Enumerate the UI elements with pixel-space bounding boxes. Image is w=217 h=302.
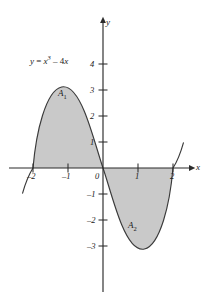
equation-equals: =: [34, 56, 44, 66]
function-area-figure: y = x3 – 4x A1 A2 x y –2 –1 0 1 2 4 3 2 …: [0, 0, 217, 302]
region-a1-index: 1: [64, 93, 67, 100]
y-tick-label-3: 3: [90, 86, 94, 95]
y-tick-label-2: 2: [90, 112, 94, 121]
y-tick-label-1: 1: [90, 138, 94, 147]
equation-rest: – 4: [51, 56, 65, 66]
x-axis-label: x: [196, 163, 200, 172]
region-label-a2: A2: [128, 221, 137, 232]
plot-canvas: [0, 0, 217, 302]
equation-label: y = x3 – 4x: [30, 55, 68, 66]
y-tick-label--2: –2: [87, 216, 96, 225]
region-a2-index: 2: [134, 225, 137, 232]
y-tick-label--3: –3: [87, 242, 96, 251]
x-tick-label-2: 2: [170, 172, 174, 181]
y-tick-label--1: –1: [87, 190, 96, 199]
shaded-region-a1: [33, 87, 103, 168]
x-tick-label--2: –2: [27, 172, 36, 181]
equation-var2: x: [64, 56, 68, 66]
x-tick-label-0: 0: [95, 172, 99, 181]
y-axis-label: y: [106, 18, 110, 27]
x-tick-label-1: 1: [135, 172, 139, 181]
x-tick-label--1: –1: [62, 172, 71, 181]
region-label-a1: A1: [58, 89, 67, 100]
y-tick-label-4: 4: [90, 60, 94, 69]
